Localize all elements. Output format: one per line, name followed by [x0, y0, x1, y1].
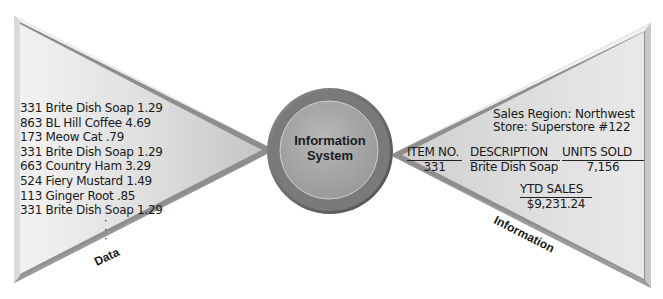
- column-header: UNITS SOLD: [562, 145, 644, 161]
- data-record: 331 Brite Dish Soap 1.29: [20, 145, 163, 160]
- column-description: DESCRIPTION Brite Dish Soap: [470, 145, 560, 174]
- column-value: Brite Dish Soap: [470, 161, 560, 174]
- column-value: 331: [407, 161, 462, 174]
- column-units-sold: UNITS SOLD 7,156: [562, 145, 644, 174]
- data-record: 173 Meow Cat .79: [20, 130, 163, 145]
- data-records-list: 331 Brite Dish Soap 1.29 863 BL Hill Cof…: [20, 101, 163, 218]
- column-value: 7,156: [562, 161, 644, 174]
- ytd-sales: YTD SALES $9,231.24: [520, 182, 592, 211]
- process-line-2: System: [270, 148, 390, 163]
- data-record: 663 Country Ham 3.29: [20, 159, 163, 174]
- data-record: 331 Brite Dish Soap 1.29: [20, 101, 163, 116]
- column-header: ITEM NO.: [407, 145, 462, 161]
- data-record: 113 Ginger Root .85: [20, 189, 163, 204]
- data-record: 331 Brite Dish Soap 1.29: [20, 203, 163, 218]
- store-name: Store: Superstore #122: [493, 121, 635, 134]
- column-item-no: ITEM NO. 331: [407, 145, 462, 174]
- ytd-header: YTD SALES: [520, 182, 592, 198]
- information-system-label: Information System: [270, 133, 390, 163]
- data-record: 863 BL Hill Coffee 4.69: [20, 116, 163, 131]
- continuation-dots: ···: [104, 216, 108, 243]
- process-line-1: Information: [270, 133, 390, 148]
- column-header: DESCRIPTION: [470, 145, 560, 161]
- ytd-value: $9,231.24: [520, 198, 592, 211]
- report-header: Sales Region: Northwest Store: Superstor…: [493, 108, 635, 134]
- data-record: 524 Fiery Mustard 1.49: [20, 174, 163, 189]
